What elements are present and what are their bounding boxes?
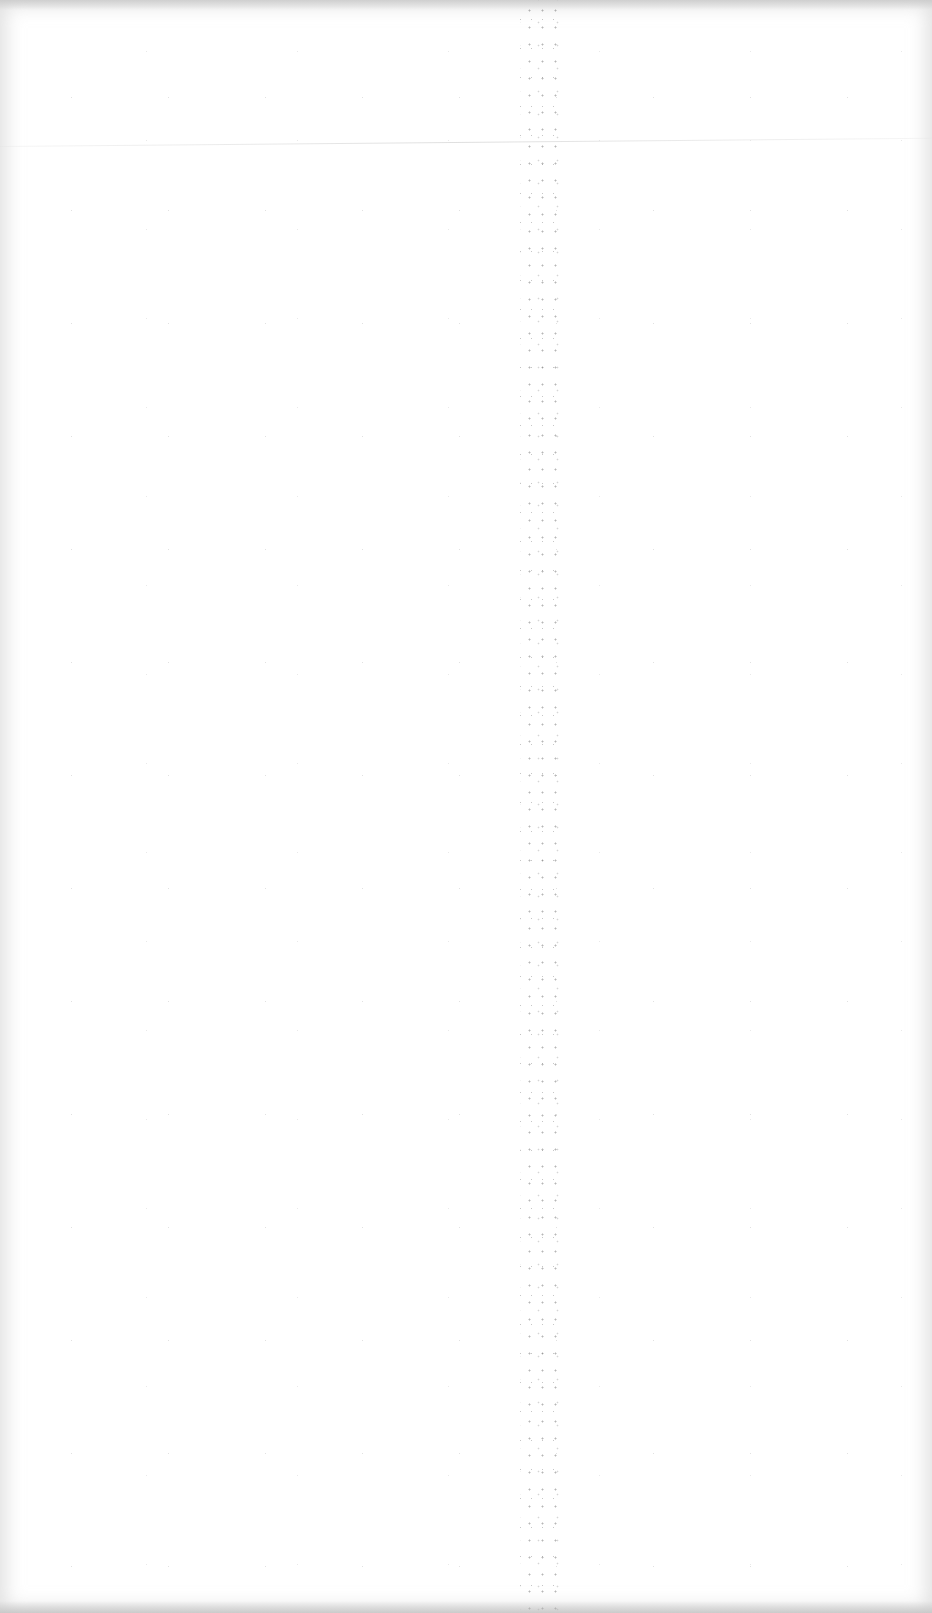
blank-page	[0, 0, 932, 1613]
bottom-edge-shadow	[0, 1601, 932, 1613]
paper-speckle-texture	[0, 0, 932, 1613]
center-fold-line	[520, 0, 560, 1613]
top-edge-shadow	[0, 0, 932, 10]
